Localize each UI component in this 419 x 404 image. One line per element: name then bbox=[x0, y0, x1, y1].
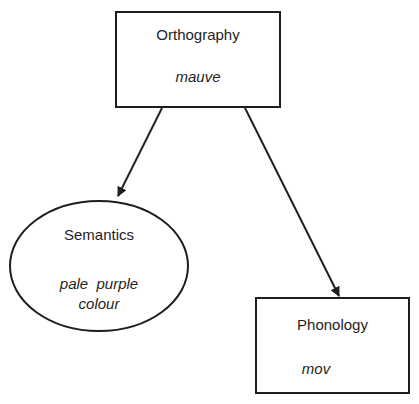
phonology-box bbox=[256, 298, 409, 393]
phonology-title: Phonology bbox=[256, 316, 409, 333]
semantics-example-line2: colour bbox=[10, 295, 188, 312]
arrow-orthography-to-semantics bbox=[118, 108, 162, 196]
phonology-example: mov bbox=[256, 360, 376, 377]
semantics-title: Semantics bbox=[10, 226, 188, 243]
orthography-title: Orthography bbox=[116, 26, 280, 43]
arrow-orthography-to-phonology bbox=[245, 108, 339, 296]
semantics-example-line1: pale purple bbox=[10, 275, 188, 292]
diagram-canvas bbox=[0, 0, 419, 404]
orthography-example: mauve bbox=[116, 68, 280, 85]
